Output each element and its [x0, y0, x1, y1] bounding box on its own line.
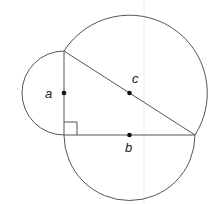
label-b: b: [125, 140, 132, 155]
label-a: a: [45, 86, 52, 101]
midpoint-b: [127, 133, 132, 138]
midpoint-c: [127, 91, 132, 96]
right-triangle-semicircles-diagram: a b c: [0, 0, 219, 204]
midpoint-a: [62, 91, 67, 96]
right-angle-marker: [64, 122, 77, 135]
label-c: c: [132, 71, 139, 86]
semicircle-a: [22, 51, 64, 135]
